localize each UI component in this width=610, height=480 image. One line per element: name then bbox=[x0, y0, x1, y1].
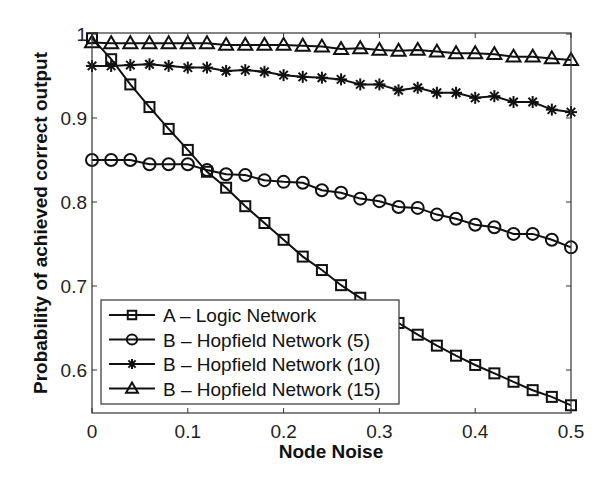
x-tick-label: 0.2 bbox=[270, 421, 296, 442]
x-tick-label: 0.1 bbox=[175, 421, 201, 442]
asterisk-marker bbox=[258, 66, 270, 78]
y-tick-label: 0.8 bbox=[61, 192, 87, 213]
legend-label: B – Hopfield Network (15) bbox=[163, 379, 381, 400]
y-axis-label: Probability of achieved correct output bbox=[30, 51, 51, 394]
asterisk-marker bbox=[450, 87, 462, 99]
line-chart: 00.10.20.30.40.50.60.70.80.91 A – Logic … bbox=[0, 0, 610, 480]
x-tick-label: 0 bbox=[87, 421, 98, 442]
asterisk-marker bbox=[182, 62, 194, 74]
x-tick-label: 0.5 bbox=[558, 421, 584, 442]
y-tick-label: 0.9 bbox=[61, 108, 87, 129]
asterisk-marker bbox=[239, 64, 251, 76]
x-tick-label: 0.3 bbox=[366, 421, 392, 442]
asterisk-marker bbox=[220, 65, 232, 77]
asterisk-marker bbox=[105, 60, 117, 72]
legend: A – Logic NetworkB – Hopfield Network (5… bbox=[101, 300, 399, 404]
asterisk-marker bbox=[508, 96, 520, 108]
asterisk-marker bbox=[124, 59, 136, 71]
y-tick-label: 1 bbox=[76, 24, 87, 45]
asterisk-marker bbox=[412, 82, 424, 94]
y-tick-label: 0.7 bbox=[61, 276, 87, 297]
y-tick-label: 0.6 bbox=[61, 360, 87, 381]
asterisk-marker bbox=[201, 62, 213, 74]
legend-label: A – Logic Network bbox=[163, 305, 317, 326]
x-axis-label: Node Noise bbox=[279, 441, 384, 462]
asterisk-marker bbox=[469, 92, 481, 104]
asterisk-marker bbox=[297, 71, 309, 83]
asterisk-marker bbox=[546, 104, 558, 116]
asterisk-marker bbox=[431, 87, 443, 99]
asterisk-marker bbox=[393, 84, 405, 96]
asterisk-marker bbox=[354, 78, 366, 90]
x-tick-label: 0.4 bbox=[462, 421, 489, 442]
legend-label: B – Hopfield Network (5) bbox=[163, 330, 370, 351]
asterisk-marker bbox=[527, 96, 539, 108]
asterisk-marker bbox=[373, 78, 385, 90]
asterisk-marker bbox=[488, 90, 500, 102]
asterisk-marker bbox=[278, 69, 290, 81]
legend-label: B – Hopfield Network (10) bbox=[163, 354, 381, 375]
asterisk-marker bbox=[143, 58, 155, 70]
asterisk-marker bbox=[335, 73, 347, 85]
asterisk-marker bbox=[316, 72, 328, 84]
asterisk-marker bbox=[163, 60, 175, 72]
asterisk-marker bbox=[127, 359, 137, 369]
